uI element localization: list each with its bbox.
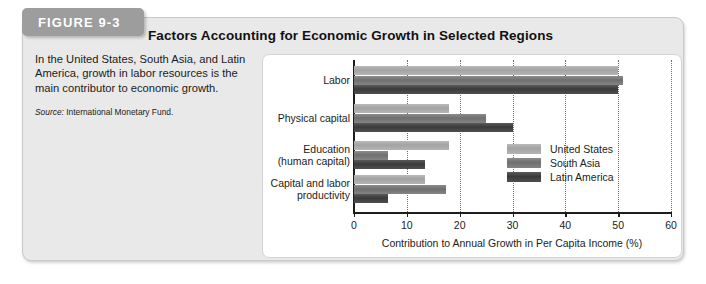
category-label: Labor xyxy=(262,74,350,87)
x-axis-tick-label: 20 xyxy=(454,219,466,231)
legend-item: Latin America xyxy=(507,171,614,183)
bar xyxy=(354,114,486,123)
x-axis-tick xyxy=(618,212,619,217)
bar xyxy=(354,151,388,160)
legend-item: South Asia xyxy=(507,157,614,169)
x-axis-tick-label: 10 xyxy=(401,219,413,231)
legend-label: United States xyxy=(550,143,613,155)
category-label-line: Physical capital xyxy=(262,112,350,125)
legend-swatch xyxy=(507,158,541,168)
x-axis-tick xyxy=(407,212,408,217)
category-label: Physical capital xyxy=(262,112,350,125)
category-label: Education(human capital) xyxy=(262,143,350,168)
chart-panel: 0102030405060Contribution to Annual Grow… xyxy=(262,54,682,258)
category-label-line: productivity xyxy=(262,189,350,202)
bar xyxy=(354,185,446,194)
x-axis-tick-label: 40 xyxy=(559,219,571,231)
legend-label: South Asia xyxy=(550,157,600,169)
figure-number-tab: FIGURE 9-3 xyxy=(22,8,144,36)
x-axis-tick-label: 60 xyxy=(665,219,677,231)
bar xyxy=(354,194,388,203)
x-axis-tick xyxy=(460,212,461,217)
bar xyxy=(354,160,425,169)
source-text: International Monetary Fund. xyxy=(64,107,173,117)
x-axis-tick-label: 0 xyxy=(351,219,357,231)
category-label-line: Labor xyxy=(262,74,350,87)
x-axis-tick xyxy=(354,212,355,217)
bar xyxy=(354,141,449,150)
bar xyxy=(354,66,618,75)
bar xyxy=(354,123,513,132)
legend-swatch xyxy=(507,172,541,182)
bar xyxy=(354,175,425,184)
category-label: Capital and laborproductivity xyxy=(262,177,350,202)
bar xyxy=(354,104,449,113)
category-label-line: (human capital) xyxy=(262,155,350,168)
legend-label: Latin America xyxy=(550,171,614,183)
figure-source: Source: International Monetary Fund. xyxy=(35,107,250,118)
source-label: Source: xyxy=(35,107,64,117)
x-axis-tick xyxy=(671,212,672,217)
category-label-line: Education xyxy=(262,143,350,156)
figure-9-3: FIGURE 9-3 Factors Accounting for Econom… xyxy=(0,0,706,284)
category-label-line: Capital and labor xyxy=(262,177,350,190)
bar xyxy=(354,76,623,85)
x-axis-tick-label: 30 xyxy=(507,219,519,231)
x-axis-tick xyxy=(513,212,514,217)
legend-swatch xyxy=(507,144,541,154)
figure-caption: In the United States, South Asia, and La… xyxy=(35,52,250,95)
figure-number-label: FIGURE 9-3 xyxy=(38,15,121,30)
bar xyxy=(354,85,618,94)
gridline xyxy=(671,60,672,212)
legend-item: United States xyxy=(507,143,614,155)
x-axis-tick xyxy=(565,212,566,217)
figure-headline: Factors Accounting for Economic Growth i… xyxy=(148,28,553,43)
bar-chart-plot: 0102030405060Contribution to Annual Grow… xyxy=(263,55,681,257)
x-axis-title: Contribution to Annual Growth in Per Cap… xyxy=(353,237,671,249)
x-axis-tick-label: 50 xyxy=(612,219,624,231)
chart-legend: United StatesSouth AsiaLatin America xyxy=(507,143,614,185)
